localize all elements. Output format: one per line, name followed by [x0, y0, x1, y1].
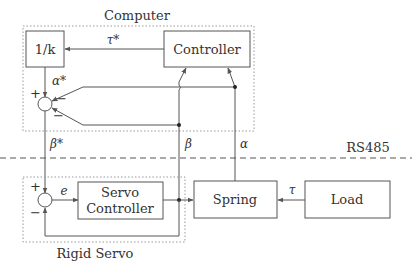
rs485-label: RS485 [346, 140, 390, 155]
load-block: Load [305, 181, 390, 218]
spring-label: Spring [213, 192, 257, 207]
alpha-junction-dot [233, 85, 237, 89]
top-minus-lower-sign: − [53, 108, 64, 123]
alpha-feedback-line [52, 87, 235, 101]
bottom-plus-sign: + [30, 179, 41, 194]
servo-controller-label-line2: Controller [86, 201, 154, 216]
top-plus-sign: + [30, 86, 41, 101]
tau-label: τ [289, 183, 296, 197]
beta-star-label: β* [49, 137, 63, 151]
beta-label: β [184, 137, 192, 151]
beta-feedback-line [52, 108, 179, 125]
error-label: e [60, 184, 67, 198]
alpha-star-label: α* [52, 74, 66, 88]
spring-block: Spring [194, 181, 277, 218]
servo-controller-label-line1: Servo [101, 185, 139, 200]
beta-junction-dot [177, 123, 181, 127]
controller-block: Controller [164, 31, 250, 67]
servo-controller-block: Servo Controller [78, 182, 163, 219]
control-block-diagram: Computer 1/k Controller τ* α* + − − β* β… [0, 0, 412, 273]
computer-group-label: Computer [104, 8, 171, 23]
inverse-k-block: 1/k [26, 31, 64, 67]
inverse-k-label: 1/k [35, 42, 56, 57]
tau-star-label: τ* [107, 33, 120, 47]
bottom-minus-sign: − [30, 205, 41, 220]
alpha-signal-line [228, 68, 235, 181]
load-label: Load [331, 192, 364, 207]
controller-label: Controller [173, 42, 241, 57]
alpha-label: α [240, 137, 248, 151]
rigid-servo-group-label: Rigid Servo [57, 246, 134, 261]
